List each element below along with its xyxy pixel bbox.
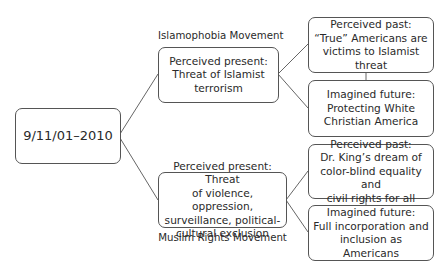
islamophobia-past-box: Perceived past: “True” Americans are vic… bbox=[308, 17, 434, 73]
edge-muslim-rights-present-to-future bbox=[286, 200, 308, 232]
islamophobia-present-box: Perceived present: Threat of Islamist te… bbox=[158, 47, 279, 103]
edge-muslim-rights-present-to-past bbox=[286, 171, 308, 200]
muslim-rights-future-text: Imagined future: Full incorporation and … bbox=[312, 206, 430, 260]
islamophobia-future-box: Imagined future: Protecting White Christ… bbox=[308, 80, 434, 137]
muslim-rights-future-box: Imagined future: Full incorporation and … bbox=[308, 205, 434, 261]
muslim-rights-past-text: Perceived past: Dr. King’s dream of colo… bbox=[312, 138, 430, 206]
root-period-label: 9/11/01–2010 bbox=[23, 129, 113, 143]
muslim-rights-past-box: Perceived past: Dr. King’s dream of colo… bbox=[308, 144, 434, 199]
islamophobia-movement-label: Islamophobia Movement bbox=[158, 30, 278, 41]
edge-islamophobia-present-to-past bbox=[278, 44, 308, 74]
edge-islamophobia-present-to-future bbox=[278, 74, 308, 108]
islamophobia-future-text: Imagined future: Protecting White Christ… bbox=[324, 88, 418, 129]
islamophobia-past-text: Perceived past: “True” Americans are vic… bbox=[312, 18, 430, 72]
islamophobia-present-text: Perceived present: Threat of Islamist te… bbox=[169, 55, 268, 96]
muslim-rights-present-box: Perceived present: Threat of violence, o… bbox=[158, 172, 287, 228]
edge-root-to-muslim-rights-present bbox=[120, 138, 158, 200]
muslim-rights-present-text: Perceived present: Threat of violence, o… bbox=[162, 160, 283, 241]
root-period-box: 9/11/01–2010 bbox=[15, 108, 121, 164]
edge-root-to-islamophobia-present bbox=[120, 74, 158, 134]
muslim-rights-movement-label: Muslim Rights Movement bbox=[158, 232, 287, 243]
